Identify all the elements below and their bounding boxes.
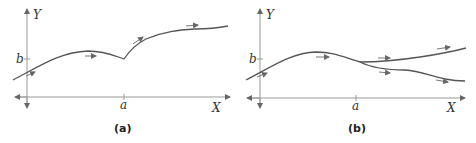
x-axis-label: X bbox=[446, 101, 456, 115]
panel-a: Y b a X (a) bbox=[13, 8, 230, 135]
trajectory-curve bbox=[13, 26, 228, 80]
diagram-canvas: Y b a X (a) Y b a X (b) bbox=[0, 0, 476, 143]
lower-branch-curve bbox=[360, 62, 465, 81]
a-label: a bbox=[120, 98, 127, 112]
y-axis-label: Y bbox=[33, 8, 42, 22]
upper-branch-curve bbox=[360, 48, 466, 62]
direction-arrow bbox=[379, 72, 390, 73]
trajectory-curve bbox=[246, 52, 360, 80]
a-label: a bbox=[352, 99, 359, 113]
b-label: b bbox=[16, 52, 24, 66]
caption-b: (b) bbox=[348, 122, 366, 135]
b-label: b bbox=[249, 52, 257, 66]
x-axis-label: X bbox=[211, 101, 221, 115]
direction-arrow bbox=[437, 47, 450, 49]
y-axis-label: Y bbox=[266, 8, 275, 22]
direction-arrow bbox=[436, 80, 448, 82]
direction-arrow bbox=[133, 37, 143, 44]
direction-arrow bbox=[186, 25, 198, 26]
caption-a: (a) bbox=[114, 122, 131, 135]
panel-b: Y b a X (b) bbox=[246, 8, 466, 135]
figure: Y b a X (a) Y b a X (b) bbox=[0, 0, 476, 143]
